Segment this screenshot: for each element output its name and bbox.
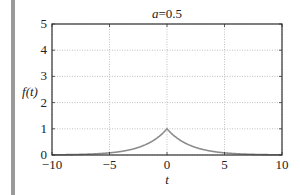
y-tick-label: 1 (41, 121, 48, 136)
x-axis-label: t (165, 172, 169, 187)
chart: −10−50510 012345 a=0.5 t f(t) (0, 0, 300, 195)
x-tick-label: 0 (164, 157, 171, 172)
y-tick-label: 4 (41, 42, 48, 57)
x-tick-label: −5 (103, 157, 117, 172)
y-axis-label: f(t) (22, 84, 38, 99)
y-tick-label: 0 (41, 147, 48, 162)
y-tick-labels: 012345 (41, 16, 48, 162)
grid-lines (52, 24, 282, 155)
y-tick-label: 2 (41, 95, 48, 110)
y-tick-label: 5 (41, 16, 48, 31)
x-tick-label: 10 (276, 157, 289, 172)
x-tick-label: 5 (221, 157, 228, 172)
chart-title: a=0.5 (152, 6, 182, 21)
x-tick-labels: −10−50510 (42, 157, 289, 172)
y-tick-label: 3 (41, 68, 48, 83)
